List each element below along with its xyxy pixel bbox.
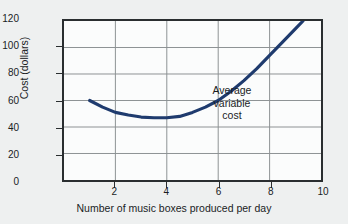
y-axis-tick-label: 40: [0, 123, 19, 133]
y-axis-tick-label: 0: [0, 177, 19, 187]
annotation-line-3: cost: [192, 109, 272, 122]
average-variable-cost-label: Average variable cost: [192, 84, 272, 122]
x-axis-tick-label: 2: [102, 186, 126, 197]
x-axis-tick-label: 8: [259, 186, 283, 197]
y-axis-tick-label: 20: [0, 150, 19, 160]
y-axis-title: Cost (dollars): [18, 0, 30, 138]
x-axis-tick-label: 4: [154, 186, 178, 197]
y-axis-tick-label: 80: [0, 68, 19, 78]
plot-area: Average variable cost: [62, 19, 323, 182]
y-axis-tick-label: 60: [0, 96, 19, 106]
x-axis-tick-label: 6: [207, 186, 231, 197]
annotation-line-1: Average: [192, 84, 272, 97]
average-variable-cost-chart: 120 100 80 60 40 20 0 2 4 6 8 10 Cost (d…: [0, 0, 348, 224]
x-axis-title: Number of music boxes produced per day: [0, 202, 348, 214]
y-axis-tick-label: 100: [0, 41, 19, 51]
annotation-line-2: variable: [192, 97, 272, 110]
x-axis-tick-label: 10: [311, 186, 335, 197]
y-axis-tick-label: 120: [0, 14, 19, 24]
